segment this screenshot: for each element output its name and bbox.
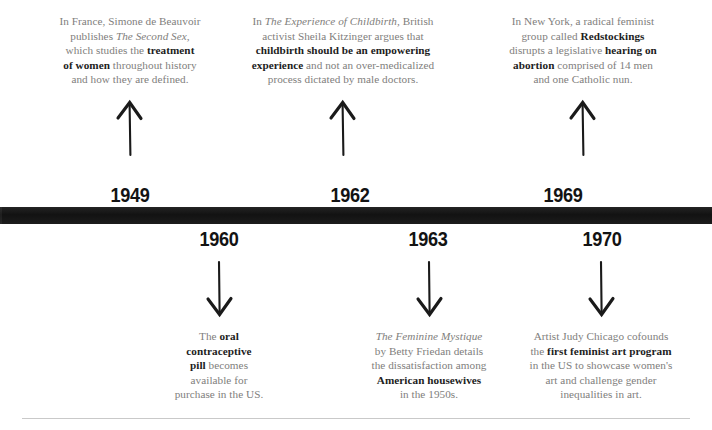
timeline-bar	[0, 207, 712, 224]
year-label-1963: 1963	[372, 228, 484, 251]
arrow-up-icon	[21, 93, 239, 157]
arrow-down-icon	[110, 260, 328, 324]
event-description-1969: In New York, a radical feministgroup cal…	[474, 14, 692, 87]
year-label-1960: 1960	[163, 228, 275, 251]
footer-divider	[22, 418, 690, 419]
event-description-1949: In France, Simone de Beauvoirpublishes T…	[21, 14, 239, 87]
timeline-event-1969: In New York, a radical feministgroup cal…	[474, 14, 692, 157]
event-description-1960: The oralcontraceptivepill becomesavailab…	[110, 329, 328, 402]
year-label-1970: 1970	[546, 228, 658, 251]
event-description-1970: Artist Judy Chicago cofoundsthe first fe…	[492, 329, 710, 402]
arrow-up-icon	[474, 93, 692, 157]
event-description-1962: In The Experience of Childbirth, British…	[234, 14, 452, 87]
arrow-down-icon	[492, 260, 710, 324]
arrow-up-icon	[234, 93, 452, 157]
timeline-event-1962: In The Experience of Childbirth, British…	[234, 14, 452, 157]
timeline-event-1960: The oralcontraceptivepill becomesavailab…	[110, 260, 328, 402]
timeline-infographic: In France, Simone de Beauvoirpublishes T…	[0, 0, 712, 430]
timeline-event-1949: In France, Simone de Beauvoirpublishes T…	[21, 14, 239, 157]
year-label-1949: 1949	[74, 184, 186, 207]
year-label-1962: 1962	[294, 184, 406, 207]
year-label-1969: 1969	[507, 184, 619, 207]
timeline-event-1970: Artist Judy Chicago cofoundsthe first fe…	[492, 260, 710, 402]
